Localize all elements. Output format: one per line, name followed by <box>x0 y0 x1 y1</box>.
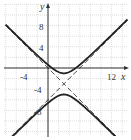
y-axis-arrow-icon <box>46 3 50 8</box>
hyperbola-lower-branch <box>6 95 128 140</box>
axes <box>4 3 129 137</box>
x-tick-neg4: -4 <box>20 72 28 82</box>
y-tick-8: 8 <box>39 22 44 32</box>
x-tick-12: 12 <box>107 72 116 82</box>
plot-area: 8 4 -4 -8 -4 12 x y <box>0 0 131 139</box>
hyperbola-graph: 8 4 -4 -8 -4 12 x y <box>0 0 131 139</box>
y-axis-label: y <box>39 1 45 12</box>
x-axis-label: x <box>120 71 126 82</box>
y-tick-4: 4 <box>39 43 44 53</box>
y-tick-neg8: -8 <box>34 107 42 117</box>
y-tick-neg4: -4 <box>34 85 42 95</box>
grid-lines <box>4 4 128 136</box>
x-axis-arrow-icon <box>124 66 129 70</box>
hyperbola-upper-branch <box>6 19 128 73</box>
